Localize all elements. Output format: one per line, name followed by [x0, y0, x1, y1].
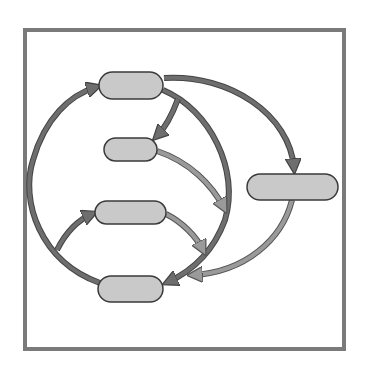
node-right[interactable] [247, 174, 338, 200]
cycle-diagram [0, 0, 366, 371]
node-upper-mid[interactable] [104, 138, 157, 161]
node-lower-mid[interactable] [95, 201, 166, 224]
node-bottom[interactable] [98, 276, 163, 302]
node-top[interactable] [99, 72, 163, 99]
